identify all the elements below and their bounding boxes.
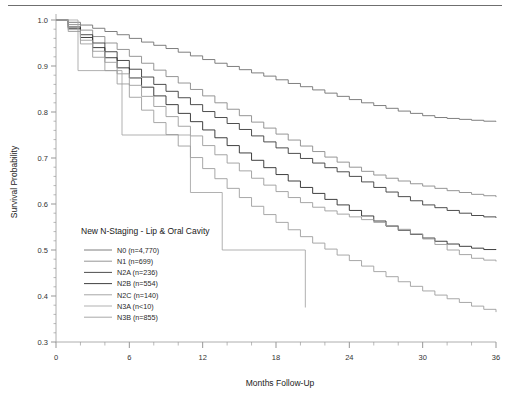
x-tick-label: 12 bbox=[198, 353, 206, 362]
x-tick-label: 30 bbox=[418, 353, 426, 362]
y-tick-label: 0.8 bbox=[38, 108, 48, 117]
y-tick-label: 0.3 bbox=[38, 338, 48, 347]
x-axis-ticks: 061218243036 bbox=[54, 342, 500, 362]
x-tick-label: 24 bbox=[345, 353, 353, 362]
legend-label-n1: N1 (n=699) bbox=[117, 257, 153, 266]
y-tick-label: 0.4 bbox=[38, 292, 48, 301]
survival-curve-n3a bbox=[56, 20, 305, 308]
y-tick-label: 0.7 bbox=[38, 154, 48, 163]
y-tick-label: 0.5 bbox=[38, 246, 48, 255]
y-axis-ticks: 0.30.40.50.60.70.80.91.0 bbox=[38, 16, 56, 347]
x-axis-label: Months Follow-Up bbox=[246, 378, 315, 388]
chart-legend: New N-Staging - Lip & Oral Cavity N0 (n=… bbox=[81, 226, 210, 322]
legend-label-n2a: N2A (n=236) bbox=[117, 268, 158, 277]
legend-items: N0 (n=4,770)N1 (n=699)N2A (n=236)N2B (n=… bbox=[84, 246, 159, 322]
x-tick-label: 18 bbox=[272, 353, 280, 362]
x-tick-label: 36 bbox=[492, 353, 500, 362]
y-axis-label: Survival Probability bbox=[9, 145, 19, 218]
y-tick-label: 1.0 bbox=[38, 16, 48, 25]
y-tick-label: 0.9 bbox=[38, 62, 48, 71]
survival-chart-figure: 0.30.40.50.60.70.80.91.0 061218243036 Su… bbox=[0, 0, 510, 404]
x-tick-label: 6 bbox=[127, 353, 131, 362]
legend-label-n3b: N3B (n=855) bbox=[117, 313, 158, 322]
legend-label-n2b: N2B (n=554) bbox=[117, 279, 158, 288]
kaplan-meier-plot: 0.30.40.50.60.70.80.91.0 061218243036 Su… bbox=[0, 0, 510, 404]
legend-title: New N-Staging - Lip & Oral Cavity bbox=[81, 226, 210, 236]
legend-label-n2c: N2C (n=140) bbox=[117, 291, 158, 300]
legend-label-n0: N0 (n=4,770) bbox=[117, 246, 159, 255]
legend-label-n3a: N3A (n<10) bbox=[117, 302, 154, 311]
x-tick-label: 0 bbox=[54, 353, 58, 362]
y-tick-label: 0.6 bbox=[38, 200, 48, 209]
